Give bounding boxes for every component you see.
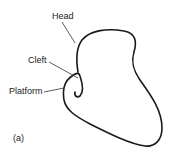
cleft-label: Cleft [28, 56, 47, 65]
head-label: Head [52, 12, 74, 21]
outline-diagram [0, 0, 178, 160]
platform-leader-line [44, 88, 64, 92]
cleft-leader-line [49, 62, 78, 78]
platform-label: Platform [9, 87, 43, 96]
head-leader-line [62, 22, 75, 43]
shape-outline [63, 30, 162, 146]
panel-label: (a) [13, 134, 24, 143]
